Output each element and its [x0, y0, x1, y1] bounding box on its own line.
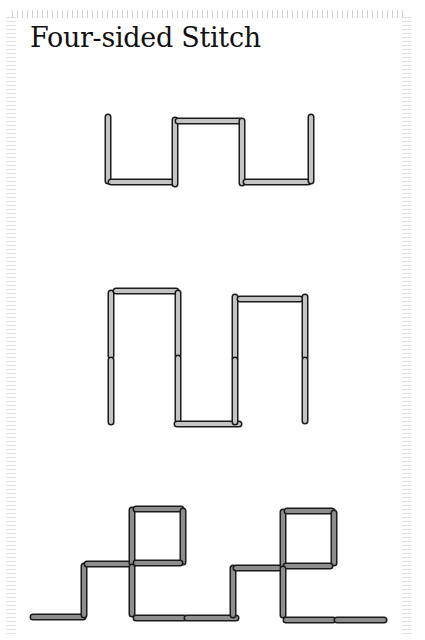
diagram-step-1: [108, 117, 311, 184]
page-frame: Four-sided Stitch: [0, 0, 425, 640]
stitch-diagrams: [0, 0, 425, 640]
diagram-step-2: [111, 291, 305, 424]
diagram-step-3: [33, 509, 384, 620]
